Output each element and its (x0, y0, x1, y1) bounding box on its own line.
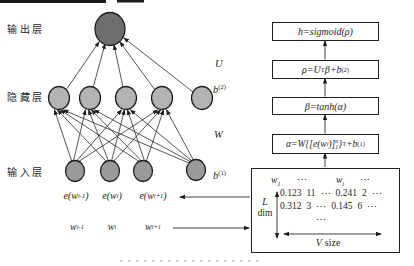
lookup-arrows (173, 197, 250, 228)
table-row-1: 0.123 11 ⋯ 0.241 2 ⋯ (280, 188, 382, 199)
input-node-3 (134, 161, 153, 182)
bias-b1-label: b(1) (213, 170, 226, 181)
table-ellipsis-row: ⋯ (316, 214, 326, 225)
input-node-2 (101, 161, 120, 182)
nodes (49, 13, 213, 182)
input-layer-label: 输入层 (7, 164, 45, 179)
hidden-node-3 (116, 87, 137, 110)
formula-alpha: α=W{[e(wi)]n1}T+b(1) (272, 134, 379, 154)
table-header-wi: wi (336, 175, 344, 185)
table-header-w1: w1 (271, 175, 281, 185)
embedding-label-next: e(wi+1) (128, 190, 178, 201)
hidden-layer-label: 隐藏层 (7, 89, 45, 104)
formula-beta-tanh: β=tanh(α) (272, 97, 379, 115)
weight-U-label: U (215, 58, 223, 69)
word-label-prev: wi-1 (58, 221, 96, 232)
nnlm-figure: 输出层 隐藏层 输入层 U b(2) W b(1) h=sigmoid(ρ) ρ… (0, 0, 414, 266)
table-row-2: 0.312 3 ⋯ 0.145 6 ⋯ (280, 201, 377, 212)
input-to-hidden-edges (55, 110, 195, 163)
table-header-dots-2: ⋯ (360, 174, 370, 185)
output-layer-label: 输出层 (7, 21, 45, 36)
cropped-content-remnant (0, 0, 144, 3)
weight-W-label: W (214, 129, 223, 140)
output-node (95, 13, 125, 46)
size-label: V size (292, 237, 364, 248)
hidden-node-2 (80, 87, 101, 110)
formula-h-sigmoid: h=sigmoid(ρ) (272, 22, 379, 41)
hidden-node-4 (152, 87, 173, 110)
bias-b2-label: b(2) (213, 84, 226, 95)
hidden-bias-node (192, 87, 213, 110)
dim-label: L dim (253, 197, 277, 219)
hidden-node-1 (49, 87, 70, 110)
input-node-1 (66, 161, 85, 182)
word-label-current: wi (98, 221, 126, 232)
cropped-caption-remnant (120, 260, 262, 262)
table-header-dots-1: ⋯ (297, 174, 307, 185)
embedding-label-current: e(wi) (93, 190, 131, 201)
hidden-to-output-edges (66, 38, 193, 92)
embedding-lookup-table: w1 ⋯ wi ⋯ 0.123 11 ⋯ 0.241 2 ⋯ 0.312 3 ⋯… (251, 168, 400, 253)
formula-rho: ρ=UTβ+b(2) (272, 60, 379, 79)
input-bias-node (187, 160, 206, 181)
word-label-next: wi+1 (134, 221, 172, 232)
